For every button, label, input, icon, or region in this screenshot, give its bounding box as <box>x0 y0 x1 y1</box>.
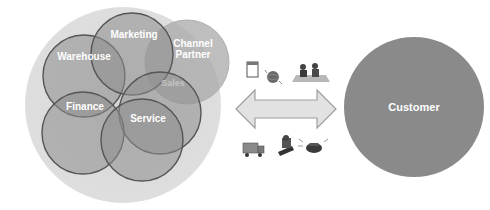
service-circle <box>101 99 183 181</box>
finance-label: Finance <box>66 101 104 112</box>
double-arrow <box>236 90 336 128</box>
notepad-icon <box>247 62 258 77</box>
crm-diagram: Warehouse Marketing Channel Partner Sale… <box>0 0 490 210</box>
sales-label: Sales <box>161 78 185 88</box>
channel-partner-label-line2: Partner <box>175 49 210 60</box>
globe-icon <box>265 70 282 84</box>
customer-label: Customer <box>388 101 440 113</box>
warehouse-label: Warehouse <box>57 51 111 62</box>
telephone-icon <box>298 139 328 153</box>
mail-icon <box>278 135 294 156</box>
meeting-icon <box>292 63 330 82</box>
marketing-label: Marketing <box>110 29 157 40</box>
service-label: Service <box>130 113 166 124</box>
delivery-truck-icon <box>243 143 264 157</box>
channel-partner-label-line1: Channel <box>173 38 213 49</box>
